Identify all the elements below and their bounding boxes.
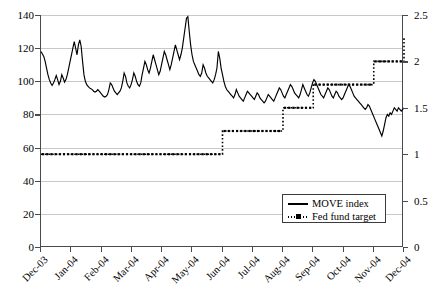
ytick-left-120: 120 <box>4 43 34 54</box>
xtick-mark-Nov-04 <box>373 247 374 252</box>
legend-key-solid-line-icon <box>287 199 309 209</box>
xtick-mark-Jun-04 <box>222 247 223 252</box>
ytick-right-2: 2 <box>414 56 443 67</box>
xtick-mark-Dec-03 <box>40 247 41 252</box>
ytick-right-2.5: 2.5 <box>414 10 443 21</box>
xtick-mark-Jul-04 <box>252 247 253 252</box>
ytick-right-0: 0 <box>414 242 443 253</box>
legend-label-move-index: MOVE index <box>312 198 369 209</box>
ytick-left-100: 100 <box>4 76 34 87</box>
xtick-mark-May-04 <box>191 247 192 252</box>
xtick-mark-Oct-04 <box>343 247 344 252</box>
ytick-left-20: 20 <box>4 208 34 219</box>
xtick-mark-Jan-04 <box>70 247 71 252</box>
legend-key-dotted-square-icon <box>287 212 309 222</box>
xtick-mark-Dec-04 <box>403 247 404 252</box>
legend: MOVE index Fed fund target <box>282 194 386 223</box>
ytick-right-1: 1 <box>414 149 443 160</box>
xtick-mark-Sep-04 <box>312 247 313 252</box>
xtick-mark-Feb-04 <box>101 247 102 252</box>
xtick-mark-Mar-04 <box>131 247 132 252</box>
legend-item-fed-fund-target: Fed fund target <box>287 210 382 223</box>
ytick-right-0.5: 0.5 <box>414 195 443 206</box>
ytick-left-80: 80 <box>4 109 34 120</box>
ytick-left-140: 140 <box>4 10 34 21</box>
legend-label-fed-fund-target: Fed fund target <box>312 211 376 222</box>
ytick-left-40: 40 <box>4 175 34 186</box>
ytick-left-0: 0 <box>4 242 34 253</box>
ytick-right-1.5: 1.5 <box>414 102 443 113</box>
xtick-mark-Aug-04 <box>282 247 283 252</box>
ytick-left-60: 60 <box>4 142 34 153</box>
chart-container: 140 120 100 80 60 40 20 0 2.5 2 1.5 1 0.… <box>0 0 443 304</box>
legend-item-move-index: MOVE index <box>287 197 382 210</box>
xtick-mark-Apr-04 <box>161 247 162 252</box>
